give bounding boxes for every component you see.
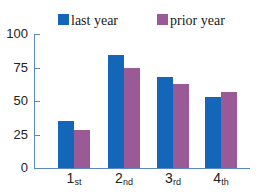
x-tick-suffix: th bbox=[221, 177, 229, 187]
bar-last-year-2nd bbox=[108, 55, 124, 168]
bar-last-year-3rd bbox=[157, 77, 173, 168]
legend-label: prior year bbox=[170, 13, 225, 29]
legend-swatch bbox=[58, 14, 69, 25]
legend-item: prior year bbox=[157, 13, 225, 29]
y-tick-label: 50 bbox=[0, 93, 28, 108]
legend-label: last year bbox=[71, 13, 118, 29]
x-tick-label: 1st bbox=[67, 170, 82, 186]
x-tick-number: 4 bbox=[213, 170, 221, 186]
x-tick-suffix: nd bbox=[123, 177, 133, 187]
y-tick bbox=[35, 34, 40, 35]
y-tick bbox=[35, 135, 40, 136]
bar-last-year-1st bbox=[58, 121, 74, 168]
y-tick bbox=[35, 101, 40, 102]
bar-prior-year-4th bbox=[221, 92, 237, 168]
bar-prior-year-3rd bbox=[173, 84, 189, 168]
legend-item: last year bbox=[58, 13, 118, 29]
x-tick-label: 4th bbox=[213, 170, 228, 186]
x-tick-number: 2 bbox=[115, 170, 123, 186]
legend-swatch bbox=[157, 14, 168, 25]
x-tick-label: 2nd bbox=[115, 170, 133, 186]
y-tick-label: 100 bbox=[0, 26, 28, 41]
x-tick-number: 3 bbox=[165, 170, 173, 186]
bar-prior-year-2nd bbox=[124, 68, 140, 169]
y-tick bbox=[35, 68, 40, 69]
x-tick-label: 3rd bbox=[165, 170, 181, 186]
bar-last-year-4th bbox=[205, 97, 221, 168]
y-tick-label: 75 bbox=[0, 60, 28, 75]
x-tick-suffix: st bbox=[74, 177, 81, 187]
x-tick-number: 1 bbox=[67, 170, 75, 186]
y-tick-label: 0 bbox=[0, 160, 28, 175]
x-axis bbox=[34, 168, 250, 169]
bar-prior-year-1st bbox=[74, 130, 90, 168]
x-tick-suffix: rd bbox=[173, 177, 181, 187]
y-tick-label: 25 bbox=[0, 127, 28, 142]
